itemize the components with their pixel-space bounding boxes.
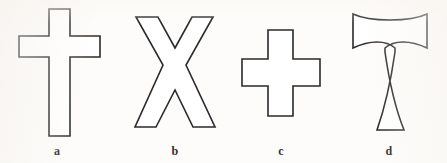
shape-greek-cross xyxy=(242,30,320,116)
panel-label-c: c xyxy=(269,144,293,158)
cross-shapes-diagram xyxy=(0,0,447,163)
panel-label-a: a xyxy=(45,144,69,158)
figure-plate: a b c d xyxy=(0,0,447,163)
shape-latin-cross xyxy=(19,9,100,136)
panel-label-d: d xyxy=(377,144,401,158)
shape-tau-cross-flared xyxy=(353,14,427,130)
shape-saltire-cross xyxy=(135,17,215,127)
panel-label-b: b xyxy=(163,144,187,158)
